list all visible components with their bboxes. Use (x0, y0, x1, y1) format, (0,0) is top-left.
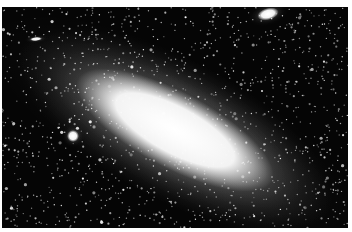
star-field (2, 7, 348, 228)
galaxy-photo (2, 7, 348, 228)
